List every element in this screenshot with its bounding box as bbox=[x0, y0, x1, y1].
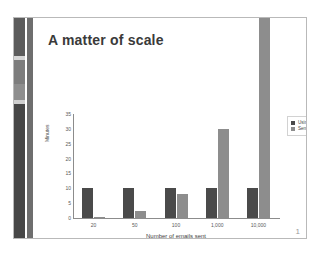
y-tick-label: 5 bbox=[68, 201, 71, 206]
x-tick-label: 10,000 bbox=[238, 222, 279, 228]
x-tick-label: 1,000 bbox=[197, 222, 238, 228]
bar bbox=[165, 188, 176, 218]
x-axis-label: Number of emails sent bbox=[73, 233, 279, 239]
legend-item: Using a service bbox=[291, 121, 307, 126]
bar-groups bbox=[73, 114, 279, 218]
bar-group bbox=[114, 114, 155, 218]
bar bbox=[218, 129, 229, 218]
sidebar-column-left bbox=[14, 18, 25, 238]
bar bbox=[123, 188, 134, 218]
y-tick-label: 20 bbox=[65, 156, 71, 161]
y-axis-label: Minutes bbox=[44, 124, 50, 142]
bar bbox=[135, 211, 146, 218]
sidebar-block-6 bbox=[14, 104, 25, 239]
x-tick-label: 50 bbox=[114, 222, 155, 228]
bar bbox=[177, 194, 188, 218]
bar bbox=[247, 188, 258, 218]
bar-chart: Minutes 05101520253035 20501001,00010,00… bbox=[47, 90, 299, 238]
sidebar-column-right bbox=[27, 18, 33, 238]
bar bbox=[82, 188, 93, 218]
bar-group bbox=[155, 114, 196, 218]
slide-title: A matter of scale bbox=[48, 32, 164, 48]
chart-legend: Using a serviceSent locally bbox=[287, 116, 307, 136]
legend-swatch-icon bbox=[291, 121, 295, 125]
y-tick-label: 15 bbox=[65, 171, 71, 176]
y-axis-tick-labels: 05101520253035 bbox=[57, 114, 71, 218]
bar bbox=[94, 217, 105, 218]
legend-item: Sent locally bbox=[291, 127, 307, 132]
y-tick-label: 35 bbox=[65, 112, 71, 117]
legend-swatch-icon bbox=[291, 127, 295, 131]
y-tick-label: 10 bbox=[65, 186, 71, 191]
bar-group bbox=[197, 114, 238, 218]
bar bbox=[259, 17, 270, 218]
legend-label: Sent locally bbox=[298, 127, 307, 132]
bar bbox=[206, 188, 217, 218]
x-axis-tick-labels: 20501001,00010,000 bbox=[73, 222, 279, 228]
sidebar-block-1 bbox=[14, 18, 25, 56]
bar-group bbox=[238, 114, 279, 218]
x-tick-label: 100 bbox=[155, 222, 196, 228]
slide-sidebar-decoration bbox=[14, 18, 33, 238]
sidebar-block-4 bbox=[14, 84, 25, 100]
x-tick-label: 20 bbox=[73, 222, 114, 228]
y-tick-label: 0 bbox=[68, 216, 71, 221]
presentation-slide: A matter of scale Minutes 05101520253035… bbox=[13, 17, 307, 239]
bar-group bbox=[73, 114, 114, 218]
legend-label: Using a service bbox=[298, 121, 307, 126]
page-number: 1 bbox=[296, 227, 300, 236]
sidebar-block-3 bbox=[14, 60, 25, 84]
y-tick-label: 25 bbox=[65, 141, 71, 146]
y-tick-label: 30 bbox=[65, 126, 71, 131]
